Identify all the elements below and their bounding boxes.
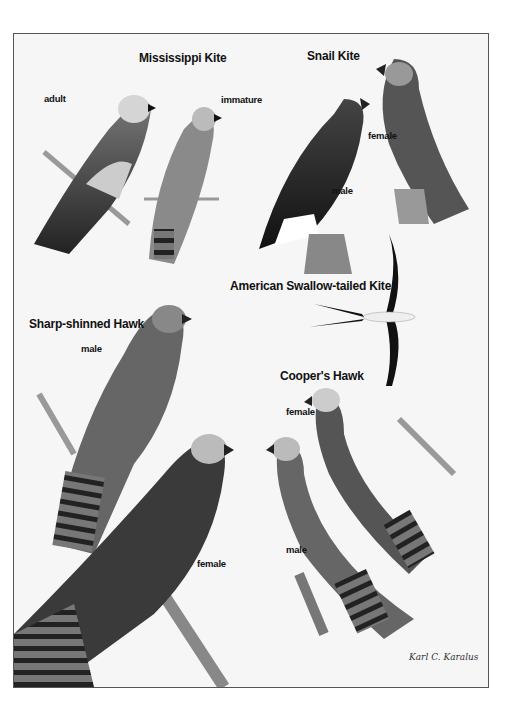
snail-kite-male [259, 98, 370, 274]
snail-kite-female [376, 59, 469, 224]
label-male: male [332, 185, 353, 196]
species-title-mississippi-kite: Mississippi Kite [139, 51, 227, 65]
label-adult: adult [44, 93, 66, 104]
birds-illustration [14, 34, 488, 687]
label-male: male [81, 343, 102, 354]
mississippi-kite-adult [34, 95, 156, 254]
mississippi-kite-immature [144, 107, 222, 264]
species-title-swallow-tailed-kite: American Swallow-tailed Kite [230, 279, 391, 293]
species-title-coopers-hawk: Cooper's Hawk [280, 369, 364, 383]
label-female: female [197, 558, 226, 569]
species-title-snail-kite: Snail Kite [307, 49, 360, 63]
label-female: female [368, 130, 397, 141]
species-title-sharp-shinned-hawk: Sharp-shinned Hawk [29, 317, 144, 331]
label-male: male [286, 544, 307, 555]
label-female: female [286, 406, 315, 417]
artist-signature: Karl C. Karalus [409, 652, 478, 662]
illustration-plate: Mississippi Kite adult immature Snail Ki… [13, 33, 489, 688]
label-immature: immature [221, 94, 262, 105]
